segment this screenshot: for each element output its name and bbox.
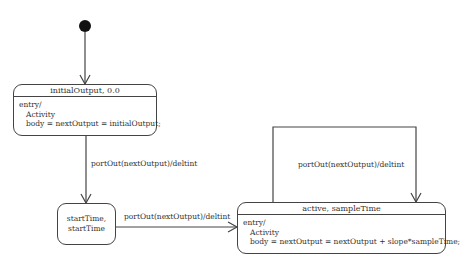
entry-label: entry/	[243, 218, 460, 228]
state-active[interactable]: active, sampleTime entry/ Activity body …	[237, 202, 446, 254]
body-expression: body = nextOutput = initialOutput;	[19, 119, 161, 129]
entry-label: entry/	[19, 100, 161, 110]
transition-label-starttime-to-active: portOut(nextOutput)/deltint	[124, 212, 230, 221]
state-body: entry/ Activity body = nextOutput = init…	[19, 100, 161, 129]
state-label: startTime, startTime	[67, 214, 106, 234]
transition-label-active-self-loop: portOut(nextOutput)/deltint	[298, 160, 404, 169]
initial-state-dot	[79, 20, 91, 32]
state-label-line1: startTime,	[67, 214, 106, 224]
state-initial-output[interactable]: initialOutput, 0.0 entry/ Activity body …	[13, 84, 157, 136]
state-body: entry/ Activity body = nextOutput = next…	[243, 218, 460, 247]
body-expression: body = nextOutput = nextOutput + slope*s…	[243, 237, 460, 247]
activity-label: Activity	[19, 110, 161, 120]
state-header: initialOutput, 0.0	[14, 85, 156, 97]
state-label-line2: startTime	[67, 224, 106, 234]
transition-label-initial-to-starttime: portOut(nextOutput)/deltint	[91, 159, 197, 168]
activity-label: Activity	[243, 228, 460, 238]
state-header: active, sampleTime	[238, 203, 445, 215]
state-start-time[interactable]: startTime, startTime	[57, 203, 116, 245]
